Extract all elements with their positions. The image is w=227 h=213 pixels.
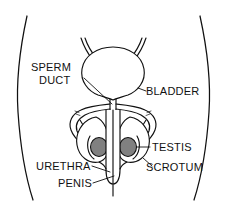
label-scrotum: SCROTUM	[146, 161, 203, 173]
testis-right	[120, 138, 137, 157]
bladder	[82, 47, 145, 100]
body-outline-left	[17, 16, 33, 200]
testis-left	[91, 138, 108, 157]
leader-bladder	[138, 88, 146, 91]
label-testis: TESTIS	[152, 141, 192, 153]
anatomy-diagram-svg: SPERM DUCT BLADDER TESTIS SCROTUM URETHR…	[0, 0, 227, 213]
scrotum-base-right	[120, 162, 127, 169]
label-bladder: BLADDER	[146, 85, 199, 97]
label-sperm-duct-line1: SPERM	[31, 61, 71, 73]
label-penis: PENIS	[58, 177, 92, 189]
label-urethra: URETHRA	[36, 160, 91, 172]
scrotum-base-left	[99, 162, 106, 169]
anatomy-figure: SPERM DUCT BLADDER TESTIS SCROTUM URETHR…	[0, 0, 227, 213]
label-sperm-duct-line2: DUCT	[39, 74, 70, 86]
